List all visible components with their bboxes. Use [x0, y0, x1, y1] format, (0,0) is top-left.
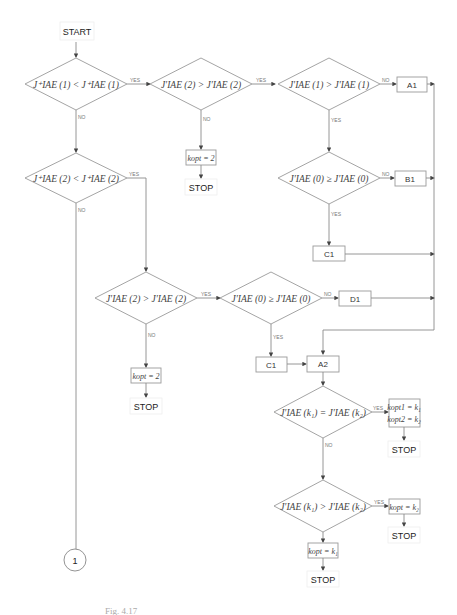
process-c1-top: C1 — [313, 246, 345, 261]
stop-label: STOP — [189, 183, 213, 193]
process-b1: B1 — [395, 171, 426, 186]
kopt-2-text: kopt = 2 — [132, 372, 159, 381]
kopt-2-box-bottom: kopt = 2 — [131, 368, 161, 383]
decision-4-text: J′IAE (1) > J′IAE (1) — [289, 80, 369, 91]
decision-6: J′IAE (2) > J′IAE (2) — [95, 272, 197, 324]
start-terminal: START — [60, 22, 94, 40]
kopt-k1-box: kopt = k₁ — [308, 543, 338, 558]
no-label: NO — [78, 114, 86, 120]
connector-1: 1 — [64, 549, 86, 571]
yes-label: YES — [273, 334, 284, 340]
decision-7-text: J′IAE (0) ≥ J′IAE (0) — [232, 294, 311, 305]
decision-2: J⁺IAE (2) < J⁺IAE (2) — [25, 153, 127, 203]
decision-3-text: J′IAE (2) > J′IAE (2) — [161, 80, 241, 91]
stop-terminal-2: STOP — [130, 398, 162, 414]
yes-label: YES — [331, 211, 342, 217]
decision-5: J′IAE (0) ≥ J′IAE (0) — [278, 152, 380, 204]
yes-label: YES — [201, 291, 212, 297]
decision-4: J′IAE (1) > J′IAE (1) — [278, 58, 380, 110]
decision-9: J′IAE (k₁) > J′IAE (k₂) — [274, 480, 372, 532]
stop-terminal-3: STOP — [388, 441, 420, 457]
flowchart: START J⁺IAE (1) < J⁺IAE (1) YES NO J′IAE… — [0, 0, 457, 615]
process-d1: D1 — [339, 291, 371, 306]
yes-label: YES — [130, 77, 141, 83]
start-label: START — [63, 27, 92, 37]
figure-caption: Fig. 4.17 — [105, 606, 138, 615]
decision-2-text: J⁺IAE (2) < J⁺IAE (2) — [33, 174, 119, 185]
kopt2-text: kopt2 = k₂ — [387, 415, 421, 424]
process-c1-bottom: C1 — [256, 357, 287, 372]
yes-label: YES — [256, 77, 267, 83]
decision-1: J⁺IAE (1) < J⁺IAE (1) — [25, 58, 127, 110]
stop-label: STOP — [392, 531, 416, 541]
yes-label: YES — [129, 171, 140, 177]
b1-label: B1 — [405, 175, 415, 184]
connector-label: 1 — [72, 556, 77, 566]
process-a1: A1 — [397, 77, 427, 92]
decision-7: J′IAE (0) ≥ J′IAE (0) — [220, 272, 322, 324]
decision-5-text: J′IAE (0) ≥ J′IAE (0) — [290, 174, 369, 185]
c1-bottom-label: C1 — [266, 361, 277, 370]
no-label: NO — [148, 332, 156, 338]
stop-label: STOP — [392, 445, 416, 455]
no-label: NO — [325, 442, 333, 448]
no-label: NO — [324, 291, 332, 297]
kopt-2-box-top: kopt = 2 — [186, 150, 216, 165]
process-a2: A2 — [307, 356, 339, 372]
d1-label: D1 — [350, 295, 361, 304]
a1-label: A1 — [407, 81, 417, 90]
decision-6-text: J′IAE (2) > J′IAE (2) — [106, 294, 186, 305]
decision-3: J′IAE (2) > J′IAE (2) — [150, 58, 252, 110]
no-label: NO — [382, 171, 390, 177]
kopt-both-box: kopt1 = k₁ kopt2 = k₂ — [387, 399, 421, 427]
kopt-k2-text: kopt = k₂ — [389, 503, 419, 512]
decision-1-text: J⁺IAE (1) < J⁺IAE (1) — [33, 80, 119, 91]
stop-terminal-1: STOP — [185, 179, 217, 195]
decision-8: J′IAE (k₁) = J′IAE (k₂) — [274, 386, 372, 438]
decision-9-text: J′IAE (k₁) > J′IAE (k₂) — [280, 502, 366, 513]
yes-label: YES — [374, 499, 385, 505]
stop-label: STOP — [134, 402, 158, 412]
c1-top-label: C1 — [324, 250, 335, 259]
kopt1-text: kopt1 = k₁ — [387, 403, 421, 412]
stop-terminal-4: STOP — [388, 527, 420, 543]
decision-8-text: J′IAE (k₁) = J′IAE (k₂) — [280, 408, 366, 419]
stop-label: STOP — [311, 575, 335, 585]
kopt-k2-box: kopt = k₂ — [389, 499, 420, 514]
no-label: NO — [382, 77, 390, 83]
yes-label: YES — [331, 117, 342, 123]
kopt-k1-text: kopt = k₁ — [308, 547, 338, 556]
stop-terminal-5: STOP — [307, 571, 339, 587]
yes-label: YES — [373, 405, 384, 411]
a2-label: A2 — [318, 360, 328, 369]
kopt-2-text: kopt = 2 — [187, 154, 214, 163]
no-label: NO — [78, 207, 86, 213]
no-label: NO — [203, 116, 211, 122]
